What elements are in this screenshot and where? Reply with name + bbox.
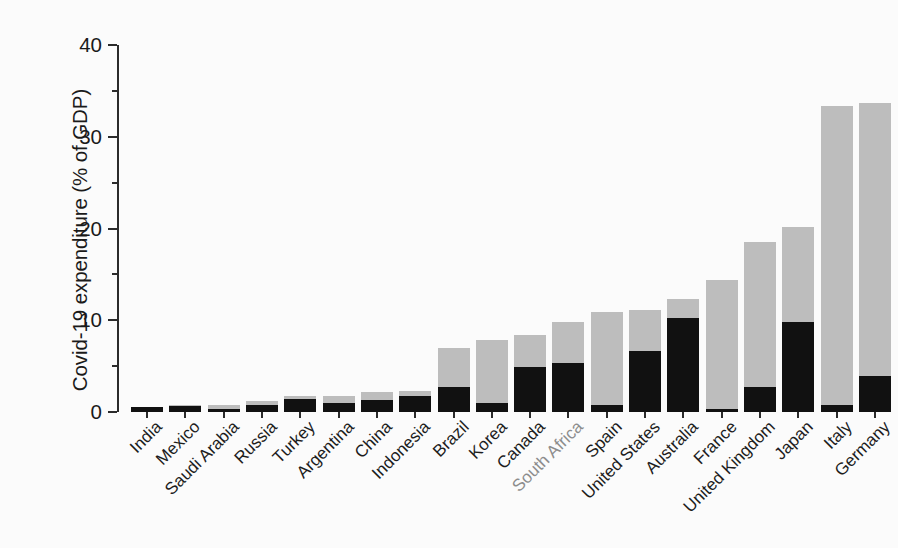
bar-segment-additional-spending [629, 351, 661, 412]
bar-segment-additional-spending [514, 367, 546, 412]
bar-stack [438, 348, 470, 412]
bar-russia[interactable] [246, 45, 278, 412]
bar-china[interactable] [361, 45, 393, 412]
bar-segment-liquidity-support [667, 299, 699, 317]
bar-stack [706, 280, 738, 412]
bar-segment-liquidity-support [514, 335, 546, 367]
bar-segment-liquidity-support [782, 227, 814, 322]
bar-saudi-arabia[interactable] [208, 45, 240, 412]
bar-united-kingdom[interactable] [744, 45, 776, 412]
bar-stack [284, 396, 316, 413]
bar-segment-additional-spending [476, 403, 508, 412]
bar-segment-liquidity-support [323, 396, 355, 403]
bar-japan[interactable] [782, 45, 814, 412]
bar-segment-additional-spending [859, 376, 891, 412]
bar-brazil[interactable] [438, 45, 470, 412]
bar-segment-additional-spending [361, 400, 393, 412]
bar-stack [821, 106, 853, 412]
y-axis-minor-tick [112, 273, 117, 275]
bar-turkey[interactable] [284, 45, 316, 412]
bar-segment-additional-spending [246, 405, 278, 412]
bar-australia[interactable] [667, 45, 699, 412]
bar-segment-liquidity-support [476, 340, 508, 402]
x-axis-tick-labels: IndiaMexicoSaudi ArabiaRussiaTurkeyArgen… [119, 418, 898, 546]
bar-korea[interactable] [476, 45, 508, 412]
bar-france[interactable] [706, 45, 738, 412]
bar-stack [667, 299, 699, 412]
bar-spain[interactable] [591, 45, 623, 412]
bar-stack [169, 405, 201, 412]
bar-segment-liquidity-support [744, 242, 776, 387]
y-axis-tick-10 [108, 319, 117, 321]
y-axis-tick-40 [108, 44, 117, 46]
y-axis-label-0: 0 [56, 402, 102, 423]
bar-stack [552, 322, 584, 412]
bar-stack [208, 405, 240, 412]
bar-germany[interactable] [859, 45, 891, 412]
bar-segment-liquidity-support [438, 348, 470, 387]
y-axis-minor-tick [112, 90, 117, 92]
x-axis-label-brazil: Brazil [429, 418, 472, 461]
bar-united-states[interactable] [629, 45, 661, 412]
bar-segment-liquidity-support [361, 392, 393, 400]
bar-stack [514, 335, 546, 412]
bar-stack [859, 103, 891, 412]
bar-segment-additional-spending [552, 363, 584, 412]
bar-segment-liquidity-support [591, 312, 623, 405]
bar-segment-additional-spending [284, 399, 316, 412]
bar-stack [744, 242, 776, 412]
bar-segment-liquidity-support [859, 103, 891, 376]
bar-stack [323, 396, 355, 413]
y-axis-label-10: 10 [56, 310, 102, 331]
bar-stack [591, 312, 623, 412]
y-axis-tick-0 [108, 411, 117, 413]
bar-segment-additional-spending [821, 405, 853, 412]
bar-stack [476, 340, 508, 412]
bar-segment-additional-spending [744, 387, 776, 412]
x-axis-label-russia: Russia [231, 418, 280, 467]
y-axis-minor-tick [112, 365, 117, 367]
x-axis-label-japan: Japan [772, 418, 817, 463]
y-axis-minor-tick [112, 182, 117, 184]
bar-stack [246, 401, 278, 412]
bar-segment-liquidity-support [629, 310, 661, 350]
bar-segment-additional-spending [591, 405, 623, 412]
bar-stack [361, 392, 393, 412]
bar-segment-liquidity-support [821, 106, 853, 404]
bar-stack [399, 391, 431, 412]
bar-stack [782, 227, 814, 412]
plot-area [119, 45, 879, 412]
bar-canada[interactable] [514, 45, 546, 412]
bar-south-africa[interactable] [552, 45, 584, 412]
y-axis-tick-labels: 010203040 [52, 0, 102, 548]
bar-stack [629, 310, 661, 412]
y-axis-tick-30 [108, 136, 117, 138]
y-axis-label-40: 40 [56, 35, 102, 56]
bar-segment-additional-spending [323, 403, 355, 412]
bar-segment-additional-spending [667, 318, 699, 413]
bar-india[interactable] [131, 45, 163, 412]
bar-segment-additional-spending [438, 387, 470, 412]
bar-italy[interactable] [821, 45, 853, 412]
bar-mexico[interactable] [169, 45, 201, 412]
y-axis-label-30: 30 [56, 127, 102, 148]
bar-indonesia[interactable] [399, 45, 431, 412]
bar-segment-liquidity-support [552, 322, 584, 363]
y-axis-tick-20 [108, 228, 117, 230]
chart-figure: Covid-19 expenditure (% of GDP) 01020304… [0, 0, 898, 548]
bar-segment-additional-spending [782, 322, 814, 412]
bar-segment-liquidity-support [706, 280, 738, 409]
bar-segment-additional-spending [399, 396, 431, 412]
y-axis-label-20: 20 [56, 219, 102, 240]
bar-argentina[interactable] [323, 45, 355, 412]
